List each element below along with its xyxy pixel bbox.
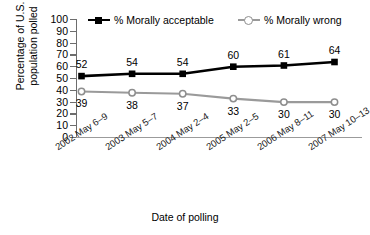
- legend-label-morally-wrong: % Morally wrong: [264, 12, 342, 28]
- data-point-label: 64: [318, 45, 352, 56]
- y-axis-tick-label: 10: [42, 120, 68, 130]
- data-point-label: 38: [115, 100, 149, 111]
- y-axis-tick-label: 40: [42, 85, 68, 95]
- data-point-label: 60: [216, 50, 250, 61]
- y-axis-title: Percentage of U.S. population polled: [9, 0, 45, 111]
- data-point-marker: [129, 90, 135, 96]
- data-point-marker: [331, 59, 338, 66]
- data-point-marker: [180, 91, 186, 97]
- data-point-label: 52: [65, 59, 99, 70]
- data-point-marker: [230, 63, 237, 70]
- data-point-marker: [78, 88, 84, 94]
- legend-swatch-open-circle-icon: [238, 14, 260, 26]
- y-axis-tick: [70, 43, 76, 44]
- line-chart: % Morally acceptable % Morally wrong Per…: [0, 0, 370, 235]
- data-point-label: 61: [267, 49, 301, 60]
- data-point-marker: [230, 95, 236, 101]
- data-point-marker: [281, 99, 287, 105]
- y-axis-tick: [70, 54, 76, 55]
- x-axis-tick-label: 2003 May 5–7: [103, 110, 159, 152]
- data-point-label: 54: [115, 57, 149, 68]
- y-axis-tick: [70, 113, 76, 114]
- y-axis-tick: [70, 78, 76, 79]
- y-axis-tick: [70, 90, 76, 91]
- legend-item-morally-acceptable[interactable]: % Morally acceptable: [88, 12, 214, 28]
- data-point-marker: [129, 71, 136, 78]
- y-axis-tick-label: 20: [42, 108, 68, 118]
- y-axis-title-line-2: population polled: [27, 6, 40, 85]
- y-axis-title-line-1: Percentage of U.S.: [14, 2, 27, 91]
- legend-label-morally-acceptable: % Morally acceptable: [114, 12, 214, 28]
- data-point-label: 37: [166, 101, 200, 112]
- y-axis-tick-label: 70: [42, 49, 68, 59]
- y-axis-tick-label: 90: [42, 26, 68, 36]
- y-axis-tick-label: 100: [42, 14, 68, 24]
- data-point-marker: [78, 73, 85, 80]
- y-axis-tick: [70, 125, 76, 126]
- data-point-marker: [179, 71, 186, 78]
- y-axis-tick: [70, 31, 76, 32]
- y-axis-tick: [70, 19, 76, 20]
- data-point-label: 39: [65, 98, 99, 109]
- data-point-marker: [331, 99, 337, 105]
- data-point-label: 54: [166, 57, 200, 68]
- legend-item-morally-wrong[interactable]: % Morally wrong: [238, 12, 342, 28]
- data-point-marker: [281, 62, 288, 69]
- x-axis-tick-label: 2004 May 2–4: [154, 110, 210, 152]
- x-axis-title: Date of polling: [0, 211, 370, 223]
- legend-swatch-filled-square-icon: [88, 14, 110, 26]
- y-axis-tick-label: 50: [42, 73, 68, 83]
- y-axis-spine: [76, 19, 77, 138]
- y-axis-tick-label: 80: [42, 38, 68, 48]
